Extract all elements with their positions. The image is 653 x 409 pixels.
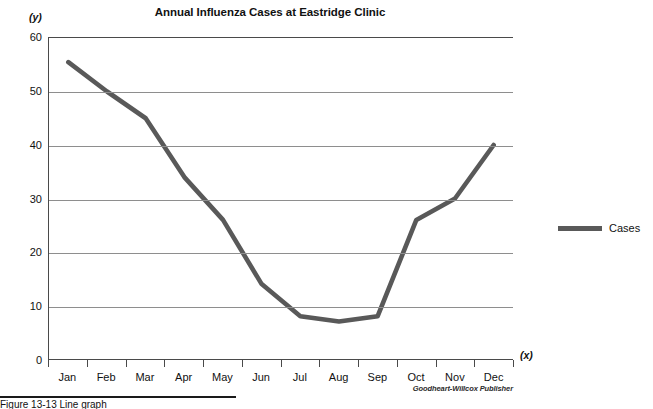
x-tick-2 [126,360,127,367]
gridline-y-50 [49,92,513,93]
y-tick-label-50: 50 [2,85,42,97]
y-tick-label-10: 10 [2,300,42,312]
x-tick-5 [242,360,243,367]
x-tick-label-mar: Mar [135,371,154,383]
series-line-cases [68,62,493,321]
plot-area [48,37,513,360]
y-axis-name: (y) [29,11,42,23]
gridline-y-20 [49,253,513,254]
legend: Cases [558,222,640,234]
x-tick-label-jun: Jun [252,371,270,383]
x-tick-label-apr: Apr [175,371,192,383]
x-tick-label-jan: Jan [59,371,77,383]
x-tick-10 [436,360,437,367]
y-tick-label-30: 30 [2,193,42,205]
x-tick-3 [164,360,165,367]
x-tick-label-nov: Nov [445,371,465,383]
chart-figure: Annual Influenza Cases at Eastridge Clin… [0,0,653,409]
x-tick-6 [281,360,282,367]
y-tick-label-20: 20 [2,246,42,258]
x-tick-12 [513,360,514,367]
legend-label-cases: Cases [609,222,640,234]
x-axis-name: (x) [520,349,533,361]
y-axis-tick-labels: 0102030405060 [0,37,42,360]
y-tick-label-0: 0 [2,354,42,366]
y-tick-label-40: 40 [2,139,42,151]
publisher-credit: Goodheart-Willcox Publisher [280,384,513,393]
x-tick-label-aug: Aug [329,371,349,383]
x-tick-label-jul: Jul [293,371,307,383]
x-tick-label-feb: Feb [97,371,116,383]
gridline-y-10 [49,307,513,308]
x-tick-1 [87,360,88,367]
chart-title: Annual Influenza Cases at Eastridge Clin… [0,6,540,18]
legend-swatch-cases [558,226,602,231]
series-layer [49,38,513,359]
x-tick-11 [474,360,475,367]
y-tick-label-60: 60 [2,31,42,43]
x-tick-7 [319,360,320,367]
x-tick-label-sep: Sep [368,371,388,383]
x-tick-label-may: May [212,371,233,383]
figure-caption: Figure 13-13 Line graph [0,399,400,409]
gridline-y-30 [49,200,513,201]
x-tick-9 [397,360,398,367]
x-tick-0 [48,360,49,367]
caption-divider [0,396,236,398]
x-tick-8 [358,360,359,367]
x-tick-label-oct: Oct [408,371,425,383]
gridline-y-40 [49,146,513,147]
x-tick-label-dec: Dec [484,371,504,383]
x-tick-4 [203,360,204,367]
